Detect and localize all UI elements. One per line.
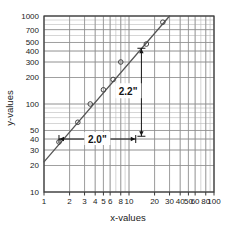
y-tick-label: 700: [26, 26, 40, 35]
x-tick-label: 3: [82, 197, 87, 206]
chart-canvas: 123456810203040506080100 102030405010020…: [0, 0, 236, 239]
vertical-span-label: 2.2": [119, 86, 138, 97]
x-tick-label: 5: [101, 197, 106, 206]
y-tick-label: 20: [30, 161, 39, 170]
y-tick-label: 50: [30, 126, 39, 135]
y-tick-label: 200: [26, 73, 40, 82]
y-tick-label: 100: [26, 100, 40, 109]
x-tick-label: 10: [125, 197, 134, 206]
y-tick-label: 400: [26, 47, 40, 56]
x-axis-tick-labels: 123456810203040506080100: [42, 197, 221, 206]
y-tick-label: 40: [30, 135, 39, 144]
x-tick-label: 2: [67, 197, 72, 206]
y-tick-label: 30: [30, 146, 39, 155]
x-tick-label: 100: [207, 197, 221, 206]
x-tick-label: 1: [42, 197, 47, 206]
y-tick-label: 10: [30, 188, 39, 197]
x-tick-label: 30: [165, 197, 174, 206]
x-tick-label: 4: [93, 197, 98, 206]
x-tick-label: 60: [191, 197, 200, 206]
y-tick-label: 1000: [21, 12, 39, 21]
grid-major-lines: [44, 16, 214, 192]
horizontal-span-label: 2.0": [88, 134, 107, 145]
x-tick-label: 8: [119, 197, 124, 206]
log-log-chart-figure: 123456810203040506080100 102030405010020…: [0, 0, 236, 239]
x-tick-label: 20: [150, 197, 159, 206]
y-axis-title: y-values: [4, 90, 15, 126]
x-tick-label: 6: [108, 197, 113, 206]
y-tick-label: 500: [26, 38, 40, 47]
axis-tick-marks: [44, 192, 214, 196]
y-tick-label: 300: [26, 58, 40, 67]
x-axis-title: x-values: [110, 212, 146, 223]
